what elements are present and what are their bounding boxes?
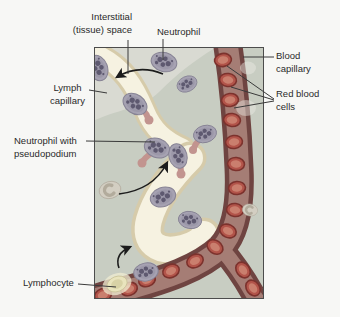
label-interstitial-line2: (tissue) space [45,24,132,37]
label-neutrophil-text: Neutrophil [157,26,200,39]
label-blood-capillary: Blood capillary [276,50,311,75]
red-blood-cells-leader-line [227,66,274,99]
label-lymph-capillary-line1: Lymph [40,82,95,95]
label-lymph-capillary: Lymph capillary [40,82,95,107]
label-interstitial-line1: Interstitial [45,11,132,24]
lymphocyte-leader-line [78,284,116,287]
label-red-blood-cells-line1: Red blood [276,88,319,101]
label-lymph-capillary-line2: capillary [40,95,95,108]
label-neutrophil-pseudopodium: Neutrophil with pseudopodium [14,135,77,160]
red-blood-cells-leader-line [234,101,274,108]
label-lymphocyte-text: Lymphocyte [23,277,74,290]
label-blood-capillary-line1: Blood [276,50,311,63]
label-neutrophil: Neutrophil [157,26,200,39]
label-red-blood-cells: Red blood cells [276,88,319,113]
red-blood-cells-leader-line [231,87,274,100]
label-interstitial-space: Interstitial (tissue) space [45,11,132,36]
label-red-blood-cells-line2: cells [276,101,319,114]
label-neutrophil-pseudopodium-line2: pseudopodium [14,148,77,161]
label-blood-capillary-line2: capillary [276,63,311,76]
label-neutrophil-pseudopodium-line1: Neutrophil with [14,135,77,148]
label-lymphocyte: Lymphocyte [23,277,74,290]
pseudopodium-leader-line [86,141,155,142]
